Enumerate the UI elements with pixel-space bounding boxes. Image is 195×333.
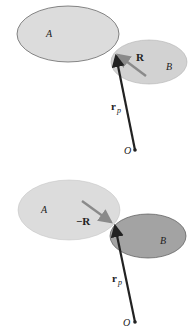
position-vector-subscript: p <box>117 278 122 287</box>
origin-label: O <box>124 145 131 156</box>
bottom-panel: A B −R r p O <box>18 180 186 328</box>
body-b-label: B <box>160 235 166 246</box>
body-a <box>17 6 119 62</box>
position-vector-label: r <box>112 272 117 284</box>
top-panel: A B R r p O <box>17 6 187 156</box>
diagram-canvas: A B R r p O A B −R r p O <box>0 0 195 333</box>
origin-label: O <box>123 317 130 328</box>
body-b-label: B <box>166 61 172 72</box>
body-a-label: A <box>45 28 53 39</box>
vector-r-label: R <box>136 51 145 63</box>
position-vector-label: r <box>111 100 116 112</box>
vector-minus-r-label: −R <box>76 215 91 227</box>
body-a <box>18 180 120 240</box>
body-a-label: A <box>40 204 48 215</box>
position-vector-subscript: p <box>116 106 121 115</box>
origin-point <box>133 320 137 324</box>
body-b <box>111 40 187 84</box>
origin-point <box>133 148 137 152</box>
